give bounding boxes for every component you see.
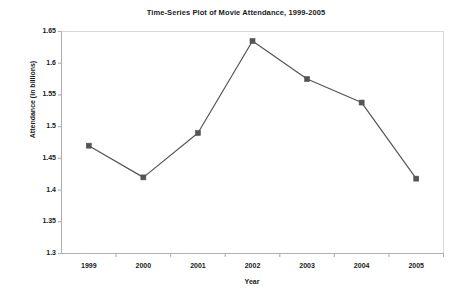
x-tick-label: 1999 [61,262,117,269]
axes-group [62,32,444,254]
data-point-marker [359,100,364,105]
y-tick-label: 1.4 [22,186,56,193]
chart-figure: Time-Series Plot of Movie Attendance, 19… [0,0,472,296]
x-tick-label: 2003 [279,262,335,269]
y-tick-label: 1.45 [22,154,56,161]
y-tick-label: 1.35 [22,217,56,224]
y-tick-label: 1.6 [22,59,56,66]
y-tick-label: 1.55 [22,90,56,97]
data-point-marker [86,143,91,148]
x-tick-label: 2004 [334,262,390,269]
y-tick-label: 1.65 [22,27,56,34]
x-tick-label: 2000 [115,262,171,269]
data-point-marker [195,130,200,135]
data-point-marker [250,39,255,44]
y-tick-label: 1.5 [22,122,56,129]
x-tick-label: 2002 [225,262,281,269]
data-point-marker [141,175,146,180]
data-point-marker [305,77,310,82]
y-tick-label: 1.3 [22,249,56,256]
x-tick-label: 2005 [388,262,444,269]
plot-area [0,0,472,296]
data-point-marker [414,176,419,181]
plot-frame [62,32,444,254]
x-tick-label: 2001 [170,262,226,269]
